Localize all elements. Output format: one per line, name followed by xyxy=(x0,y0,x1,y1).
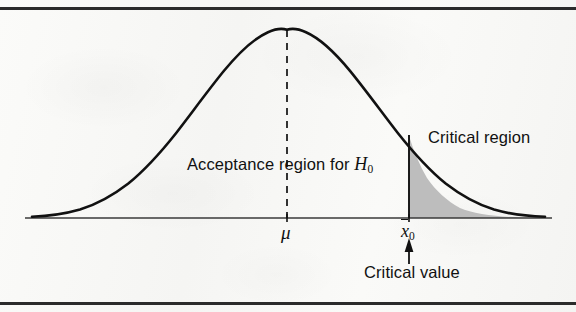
critical-value-axis-label: x0 xyxy=(401,222,415,243)
critical-region-label: Critical region xyxy=(428,129,530,146)
xbar-symbol: x xyxy=(401,221,409,241)
statistical-hypothesis-test-figure: Acceptance region for H0 Critical region… xyxy=(0,0,576,312)
critical-value-label: Critical value xyxy=(364,264,460,281)
mean-axis-label: μ xyxy=(281,223,291,242)
xbar-subscript: 0 xyxy=(409,230,415,242)
null-hypothesis-subscript: 0 xyxy=(367,163,373,175)
acceptance-region-label: Acceptance region for H0 xyxy=(187,155,373,176)
null-hypothesis-symbol: H xyxy=(354,154,367,174)
normal-distribution-curve xyxy=(32,29,545,217)
acceptance-region-text: Acceptance region for xyxy=(187,155,354,173)
critical-region-shading xyxy=(409,136,545,218)
